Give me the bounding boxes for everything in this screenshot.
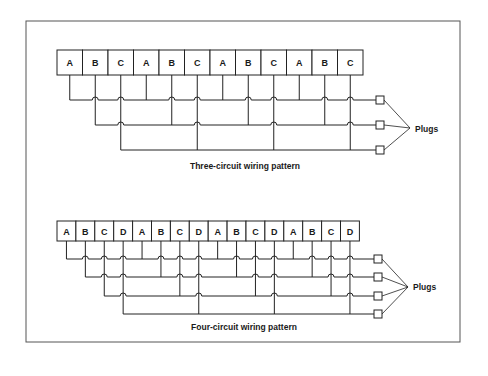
outlet-label: A [220,58,227,68]
three-circuit-diagram: ABCABCABCABC [57,50,410,154]
outlet-label: B [322,58,329,68]
outlet-label: B [169,58,176,68]
three-circuit-caption: Three-circuit wiring pattern [190,161,300,171]
outlet-label: A [67,58,74,68]
plug-icon [374,273,382,281]
outlet-label: D [347,227,354,237]
outlet-label: C [328,227,335,237]
outlet-label: A [139,227,146,237]
outlet-label: B [92,58,99,68]
plug-icon [374,292,382,300]
circuit-bus [66,256,374,259]
plug-icon [376,96,384,104]
outlet-label: C [252,227,259,237]
outlet-label: B [245,58,252,68]
outlet-label: A [143,58,150,68]
four-circuit-caption: Four-circuit wiring pattern [191,322,297,332]
plug-icon [374,255,382,263]
circuit-bus [104,293,374,296]
wiring-diagram: ABCABCABCABC ABCDABCDABCDABCD Three-circ… [0,0,488,376]
plug-icon [376,146,384,154]
outlet-label: C [118,58,125,68]
outlet-label: D [196,227,203,237]
circuit-bus [95,122,376,125]
outlet-label: C [347,58,354,68]
outlet-label: B [82,227,89,237]
outlet-label: B [309,227,316,237]
plugs-label-four-circuit: Plugs [413,282,436,292]
outlet-label: A [290,227,297,237]
outlet-label: C [101,227,108,237]
outlet-label: A [63,227,70,237]
outlet-label: A [296,58,303,68]
outlet-label: C [177,227,184,237]
four-circuit-diagram: ABCDABCDABCDABCD [57,221,408,318]
plug-leader-line [384,128,410,150]
plug-leader-line [382,287,408,314]
outlet-label: D [120,227,127,237]
outlet-label: C [194,58,201,68]
plug-leader-line [382,277,408,287]
outlet-label: B [233,227,240,237]
plug-icon [374,310,382,318]
plugs-label-three-circuit: Plugs [415,124,438,134]
plug-leader-line [382,259,408,287]
plug-leader-line [384,125,410,128]
outlet-label: C [271,58,278,68]
plug-icon [376,121,384,129]
outlet-label: D [271,227,278,237]
outlet-label: A [214,227,221,237]
plug-leader-line [384,100,410,128]
outlet-label: B [158,227,165,237]
